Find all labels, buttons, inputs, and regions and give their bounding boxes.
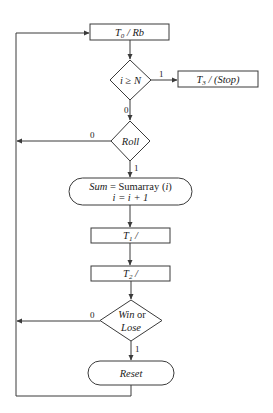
edge-label-winlose-false: 0 — [90, 310, 95, 320]
svg-text:Win or: Win or — [118, 309, 146, 320]
node-t2: T2 / — [91, 266, 170, 281]
node-win-or-lose: Win or Lose — [100, 300, 162, 341]
edge-label-winlose-true: 1 — [135, 344, 140, 354]
svg-text:Reset: Reset — [119, 368, 144, 379]
node-reset: Reset — [88, 361, 174, 385]
svg-text:Lose: Lose — [120, 322, 141, 333]
svg-text:i = i + 1: i = i + 1 — [113, 192, 149, 203]
node-t3-stop: T3 / (Stop) — [178, 71, 258, 87]
svg-text:i ≥ N: i ≥ N — [120, 75, 142, 86]
loop-back-connector — [16, 33, 131, 396]
node-sum-sumarray: Sum = Sumarray (i) i = i + 1 — [69, 178, 192, 205]
node-roll: Roll — [111, 121, 150, 161]
edge-label-roll-false: 0 — [90, 130, 95, 140]
edge-label-cond-true: 1 — [159, 69, 164, 79]
svg-text:Sum = Sumarray (i): Sum = Sumarray (i) — [89, 181, 172, 193]
edge-label-cond-false: 0 — [124, 105, 129, 115]
node-cond-i-ge-n: i ≥ N — [110, 60, 151, 100]
svg-text:Roll: Roll — [121, 136, 140, 147]
edge-label-roll-true: 1 — [134, 163, 139, 173]
node-t0-rb: T0 / Rb — [90, 24, 169, 40]
flowchart: T0 / Rb i ≥ N 1 T3 / (Stop) 0 Roll 0 1 S… — [0, 0, 273, 413]
node-t1: T1 / — [91, 228, 170, 243]
